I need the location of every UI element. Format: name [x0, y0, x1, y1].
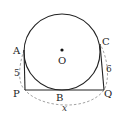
measure-x: x	[62, 103, 67, 113]
center-dot	[60, 48, 63, 51]
segment-ap	[24, 50, 25, 90]
label-b: B	[56, 92, 63, 103]
measure-cq: 6	[106, 64, 112, 74]
label-q: Q	[104, 88, 112, 99]
measure-ap: 5	[14, 68, 20, 78]
label-o: O	[58, 55, 66, 66]
circle-o	[24, 14, 100, 90]
label-c: C	[102, 36, 110, 47]
geometry-figure: O A C P Q B 5 6 x	[0, 0, 119, 125]
label-a: A	[12, 45, 21, 56]
label-p: P	[13, 88, 20, 99]
dashed-arc	[20, 44, 108, 105]
